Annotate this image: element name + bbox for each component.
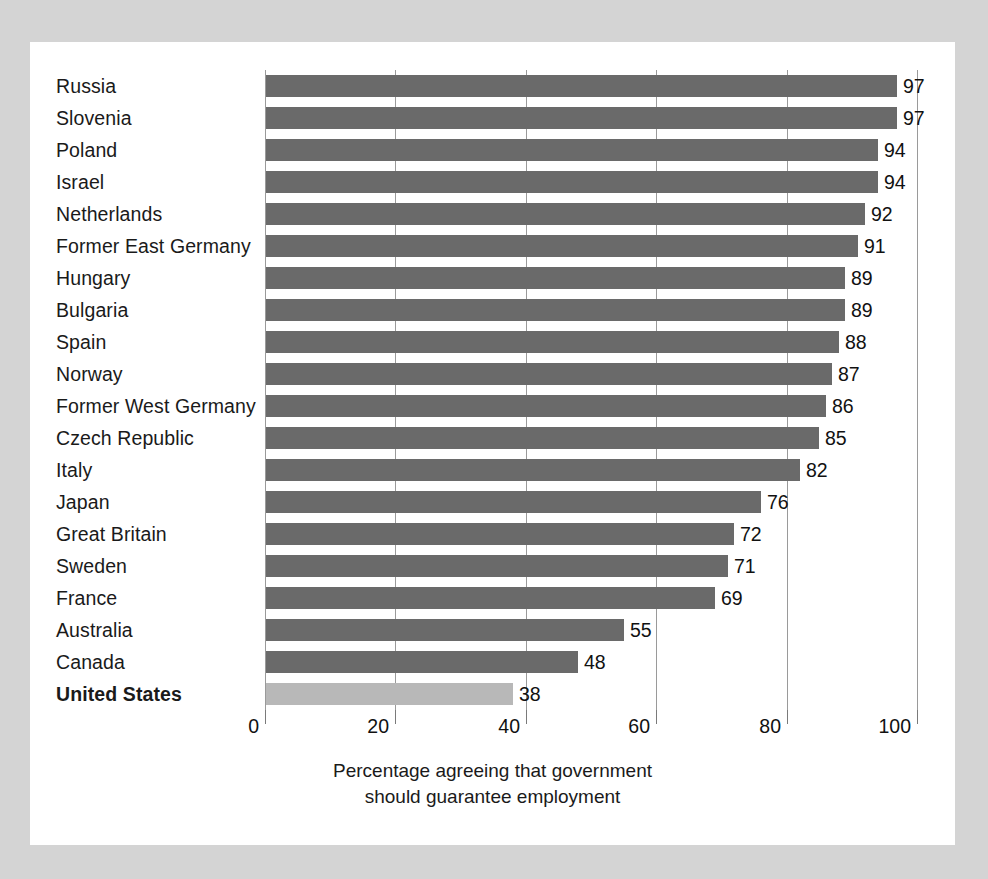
bar [265, 555, 728, 577]
category-label: Netherlands [30, 198, 252, 230]
bar-row: United States38 [30, 678, 955, 710]
category-label: Hungary [30, 262, 252, 294]
category-label: Japan [30, 486, 252, 518]
category-label: Poland [30, 134, 252, 166]
bar-row: Former West Germany86 [30, 390, 955, 422]
bar-row: Poland94 [30, 134, 955, 166]
bar [265, 267, 845, 289]
bar-row: Norway87 [30, 358, 955, 390]
bar-row: Italy82 [30, 454, 955, 486]
bar-value-label: 89 [845, 294, 873, 326]
bar-value-label: 55 [624, 614, 652, 646]
category-label: Bulgaria [30, 294, 252, 326]
bar-value-label: 76 [761, 486, 789, 518]
bar-value-label: 97 [897, 102, 925, 134]
bar-value-label: 71 [728, 550, 756, 582]
bar-value-label: 89 [845, 262, 873, 294]
bar-value-label: 97 [897, 70, 925, 102]
axis-tick-label: 0 [248, 711, 265, 741]
bar [265, 107, 897, 129]
bar [265, 491, 761, 513]
bar-value-label: 86 [826, 390, 854, 422]
category-label: United States [30, 678, 252, 710]
bar-row: Australia55 [30, 614, 955, 646]
bar [265, 299, 845, 321]
bar-value-label: 69 [715, 582, 743, 614]
bar [265, 427, 819, 449]
axis-tick-label: 20 [367, 711, 395, 741]
bar-row: Czech Republic85 [30, 422, 955, 454]
category-label: Israel [30, 166, 252, 198]
caption-line-1: Percentage agreeing that government [30, 758, 955, 784]
bar-value-label: 94 [878, 166, 906, 198]
bar-row: Netherlands92 [30, 198, 955, 230]
bar-value-label: 91 [858, 230, 886, 262]
category-label: Czech Republic [30, 422, 252, 454]
bar [265, 171, 878, 193]
bar-row: Great Britain72 [30, 518, 955, 550]
bar-row: France69 [30, 582, 955, 614]
bar-value-label: 85 [819, 422, 847, 454]
axis-tick-label: 80 [759, 711, 787, 741]
bar-chart-plot-area: Russia97Slovenia97Poland94Israel94Nether… [30, 42, 955, 845]
bar [265, 139, 878, 161]
bar [265, 619, 624, 641]
bar [265, 523, 734, 545]
category-label: Spain [30, 326, 252, 358]
bar [265, 395, 826, 417]
bar-row: Israel94 [30, 166, 955, 198]
category-label: Sweden [30, 550, 252, 582]
category-label: Italy [30, 454, 252, 486]
bar-row: Spain88 [30, 326, 955, 358]
x-axis-tick-labels: 020406080100 [30, 711, 955, 741]
x-axis-caption: Percentage agreeing that governmentshoul… [30, 758, 955, 810]
category-label: Russia [30, 70, 252, 102]
category-label: Canada [30, 646, 252, 678]
bar-value-label: 88 [839, 326, 867, 358]
figure-frame: Russia97Slovenia97Poland94Israel94Nether… [0, 0, 988, 879]
bar-row: Hungary89 [30, 262, 955, 294]
category-label: Former West Germany [30, 390, 252, 422]
category-label: Norway [30, 358, 252, 390]
bar [265, 203, 865, 225]
bar-value-label: 87 [832, 358, 860, 390]
bar-value-label: 94 [878, 134, 906, 166]
bar-row: Former East Germany91 [30, 230, 955, 262]
bar-row: Sweden71 [30, 550, 955, 582]
category-label: Great Britain [30, 518, 252, 550]
axis-tick-label: 60 [628, 711, 656, 741]
chart-panel: Russia97Slovenia97Poland94Israel94Nether… [30, 42, 955, 845]
bar-value-label: 48 [578, 646, 606, 678]
bar-row: Russia97 [30, 70, 955, 102]
bar-row: Canada48 [30, 646, 955, 678]
bar [265, 459, 800, 481]
y-axis-spine [265, 70, 266, 710]
caption-line-2: should guarantee employment [30, 784, 955, 810]
bar [265, 331, 839, 353]
bar-row: Bulgaria89 [30, 294, 955, 326]
axis-tick-label: 40 [498, 711, 526, 741]
bar-value-label: 82 [800, 454, 828, 486]
category-label: Former East Germany [30, 230, 252, 262]
bar [265, 235, 858, 257]
bar-value-label: 38 [513, 678, 541, 710]
bar [265, 587, 715, 609]
bar [265, 683, 513, 705]
category-label: France [30, 582, 252, 614]
bar [265, 363, 832, 385]
category-label: Slovenia [30, 102, 252, 134]
bar-value-label: 92 [865, 198, 893, 230]
bar-row: Japan76 [30, 486, 955, 518]
bar [265, 651, 578, 673]
bar-row: Slovenia97 [30, 102, 955, 134]
bar [265, 75, 897, 97]
bar-value-label: 72 [734, 518, 762, 550]
category-label: Australia [30, 614, 252, 646]
axis-tick-label: 100 [878, 711, 917, 741]
